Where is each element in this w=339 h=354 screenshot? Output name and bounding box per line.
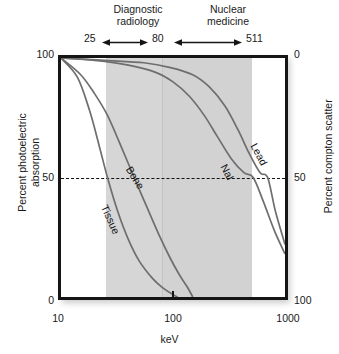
range-title-diagnostic-radiology: Diagnostic radiology — [96, 3, 180, 27]
range-title-nuclear-line1: Nuclear — [186, 3, 270, 15]
y-left-tick-100: 100 — [28, 48, 54, 60]
range-marker-511: 511 — [246, 32, 263, 44]
y-axis-title-right: Percent compton scatter — [322, 76, 335, 236]
range-title-nuclear-line2: medicine — [186, 15, 270, 27]
y-axis-title-left-line2: absorption — [28, 83, 41, 243]
curve-tissue — [61, 58, 178, 297]
x-tick-mark-100 — [172, 291, 174, 300]
curve-layer — [61, 58, 285, 297]
x-tick-10: 10 — [38, 312, 78, 324]
y-axis-title-left: Percent photoelectric absorption — [16, 83, 41, 243]
x-tick-1000: 1000 — [268, 312, 308, 324]
y-right-tick-50: 50 — [294, 171, 324, 183]
range-arrow-nuclear-icon — [174, 38, 242, 47]
x-axis-title: keV — [0, 333, 339, 345]
range-title-diagnostic-line1: Diagnostic — [96, 3, 180, 15]
range-arrow-diagnostic-icon — [102, 38, 148, 47]
plot-area: TissueBoneNaILead — [58, 55, 288, 300]
range-marker-25: 25 — [84, 32, 96, 44]
range-title-diagnostic-line2: radiology — [96, 15, 180, 27]
range-title-nuclear-medicine: Nuclear medicine — [186, 3, 270, 27]
y-right-tick-100: 100 — [294, 294, 324, 306]
range-marker-80: 80 — [152, 32, 164, 44]
curve-bone — [61, 58, 193, 297]
y-left-tick-0: 0 — [28, 294, 54, 306]
photoelectric-compton-chart: Diagnostic radiology Nuclear medicine 25… — [0, 0, 339, 354]
y-right-tick-0: 0 — [294, 48, 324, 60]
x-tick-100: 100 — [153, 312, 193, 324]
y-axis-title-left-line1: Percent photoelectric — [16, 83, 29, 243]
